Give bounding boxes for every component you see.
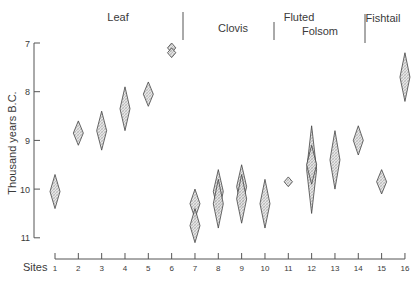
site-13-dates [330, 131, 340, 189]
x-tick-label: 14 [354, 264, 363, 273]
y-axis: 7891011 [20, 39, 40, 244]
site-14-dates [353, 126, 363, 155]
period-label-folsom: Folsom [302, 25, 338, 37]
data-points [50, 43, 410, 243]
site-2-dates [73, 121, 83, 145]
date-range-diamond [260, 179, 270, 228]
y-axis-label: Thousand years B.C. [6, 91, 18, 194]
y-tick-label: 8 [25, 87, 30, 97]
site-1-dates [50, 174, 60, 208]
date-range-diamond [73, 121, 83, 145]
site-15-dates [377, 170, 387, 194]
period-label-fluted: Fluted [284, 11, 315, 23]
x-tick-label: 9 [239, 264, 244, 273]
x-tick-label: 1 [53, 264, 58, 273]
x-tick-label: 10 [261, 264, 270, 273]
y-tick-label: 10 [20, 185, 30, 195]
x-tick-label: 5 [146, 264, 151, 273]
x-tick-label: 2 [76, 264, 81, 273]
site-7-dates [190, 189, 200, 243]
x-tick-label: 12 [307, 264, 316, 273]
site-6-dates [167, 43, 175, 58]
date-range-diamond [50, 174, 60, 208]
site-16-dates [400, 53, 410, 102]
cultural-periods: LeafClovisFlutedFolsomFishtail [107, 11, 400, 43]
period-label-clovis: Clovis [218, 22, 248, 34]
site-5-dates [143, 82, 153, 106]
site-9-dates [237, 165, 247, 223]
period-label-leaf: Leaf [107, 11, 129, 23]
date-range-diamond [120, 87, 130, 131]
site-11-dates [284, 177, 292, 187]
x-tick-label: 4 [123, 264, 128, 273]
y-tick-label: 7 [25, 39, 30, 49]
date-range-diamond [377, 170, 387, 194]
date-range-diamond [284, 177, 292, 187]
date-range-diamond [330, 131, 340, 189]
x-tick-label: 13 [331, 264, 340, 273]
x-tick-label: 7 [193, 264, 198, 273]
date-range-diamond [190, 209, 200, 243]
date-range-diamond [97, 111, 107, 150]
x-tick-label: 3 [99, 264, 104, 273]
y-tick-label: 11 [21, 233, 30, 243]
site-3-dates [97, 111, 107, 150]
date-range-diamond [143, 82, 153, 106]
period-label-fishtail: Fishtail [366, 12, 401, 24]
chart: 7891011 12345678910111213141516 LeafClov… [0, 0, 416, 281]
site-10-dates [260, 179, 270, 228]
x-tick-label: 15 [377, 264, 386, 273]
y-tick-label: 9 [25, 136, 30, 146]
x-tick-label: 6 [169, 264, 174, 273]
x-axis-label: Sites [23, 261, 48, 273]
site-4-dates [120, 87, 130, 131]
x-tick-label: 16 [400, 264, 409, 273]
date-range-diamond [400, 53, 410, 102]
site-8-dates [213, 170, 223, 228]
x-tick-label: 8 [216, 264, 221, 273]
site-12-dates [307, 126, 317, 214]
date-range-diamond [353, 126, 363, 155]
x-tick-label: 11 [284, 264, 293, 273]
x-axis: 12345678910111213141516 [53, 253, 410, 273]
